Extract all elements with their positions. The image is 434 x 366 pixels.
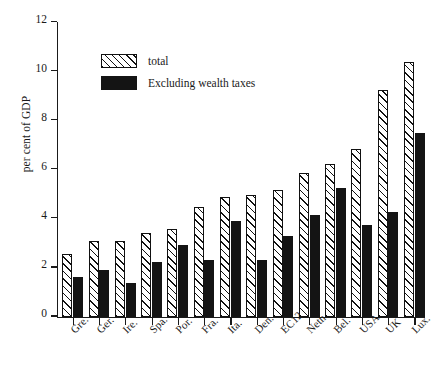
bar-total [89,241,99,316]
bar-excluding-wealth-taxes [257,260,267,317]
y-axis-line [57,22,58,318]
bar-total [194,207,204,316]
bar-total [404,62,414,317]
bar-total [273,190,283,316]
y-axis-tick: 0 [51,315,57,316]
y-axis-tick: 2 [51,266,57,267]
y-axis-tick: 6 [51,168,57,169]
x-axis-tick-label: UK [383,316,403,336]
y-axis-tick-label: 8 [41,111,47,123]
x-axis-tick-label: Ita. [225,317,244,336]
bar-excluding-wealth-taxes [415,133,425,316]
y-axis-title: per cent of GDP [20,64,32,204]
y-axis-tick: 12 [51,21,57,22]
chart-legend: totalExcluding wealth taxes [101,50,255,94]
hatched-swatch [101,54,137,68]
bar-excluding-wealth-taxes [283,236,293,317]
bar-total [62,254,72,317]
bar-total [115,241,125,316]
bar-total [220,197,230,317]
x-axis-tick-label: Ire. [120,316,139,335]
bar-chart-figure: per cent of GDP 024681012 Gre.Ger.Ire.Sp… [0,0,434,366]
bar-total [141,233,151,317]
y-axis-tick: 10 [51,70,57,71]
legend-item: Excluding wealth taxes [101,72,255,94]
solid-black-swatch [101,76,137,90]
y-axis-tick-label: 6 [41,160,47,172]
bar-excluding-wealth-taxes [126,283,136,316]
y-axis-tick-label: 12 [36,13,48,25]
bar-excluding-wealth-taxes [204,260,214,317]
bar-excluding-wealth-taxes [362,225,372,317]
bar-excluding-wealth-taxes [152,262,162,316]
legend-item-label: total [148,55,168,67]
bar-excluding-wealth-taxes [231,221,241,317]
y-axis-tick-label: 0 [41,307,47,319]
bar-total [378,90,388,316]
bar-total [325,164,335,317]
y-axis-tick: 8 [51,119,57,120]
bar-excluding-wealth-taxes [178,245,188,316]
y-axis-tick: 4 [51,217,57,218]
bar-total [246,195,256,317]
bar-total [351,149,361,317]
bar-excluding-wealth-taxes [310,215,320,317]
legend-item: total [101,50,255,72]
bar-total [167,229,177,316]
y-axis-tick-label: 10 [36,62,48,74]
y-axis-tick-label: 4 [41,209,47,221]
bar-excluding-wealth-taxes [336,188,346,316]
bar-excluding-wealth-taxes [99,270,109,317]
y-axis-tick-label: 2 [41,258,47,270]
bar-excluding-wealth-taxes [73,277,83,317]
legend-item-label: Excluding wealth taxes [148,77,255,89]
bar-total [299,173,309,317]
bar-excluding-wealth-taxes [388,212,398,317]
